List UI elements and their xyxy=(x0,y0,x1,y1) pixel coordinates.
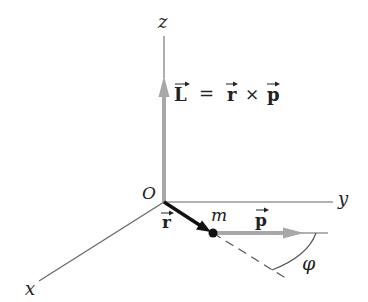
svg-text:r: r xyxy=(162,212,172,232)
equation-r: r xyxy=(227,84,237,105)
equation-equals: = xyxy=(199,83,214,104)
svg-text:p: p xyxy=(255,210,267,230)
particle-m xyxy=(209,229,218,238)
origin-label: O xyxy=(142,183,156,203)
mass-label: m xyxy=(211,205,227,225)
x-axis-label: x xyxy=(25,278,35,299)
L-vector-arrowhead xyxy=(159,76,170,97)
y-axis-label: y xyxy=(337,188,349,209)
equation-L: L xyxy=(174,84,187,105)
x-axis xyxy=(39,202,164,281)
equation-times: × xyxy=(245,84,259,104)
r-extension-dashed xyxy=(213,233,287,279)
angular-momentum-diagram: z y x O m φ r p L = r × p xyxy=(0,0,368,302)
angular-momentum-equation: L = r × p xyxy=(174,82,280,106)
z-axis-label: z xyxy=(157,11,168,32)
r-vector-label: r xyxy=(161,211,174,233)
p-vector-arrowhead xyxy=(283,228,304,239)
equation-p: p xyxy=(267,84,280,105)
p-vector-label: p xyxy=(255,208,269,231)
angle-phi-label: φ xyxy=(302,252,316,274)
